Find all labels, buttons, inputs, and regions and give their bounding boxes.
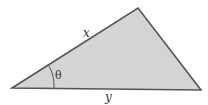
side-label-x: x: [83, 26, 90, 40]
triangle-diagram: x θ y: [0, 0, 208, 105]
side-label-y: y: [104, 90, 112, 104]
angle-label-theta: θ: [55, 69, 62, 82]
triangle-shape: [12, 8, 201, 90]
